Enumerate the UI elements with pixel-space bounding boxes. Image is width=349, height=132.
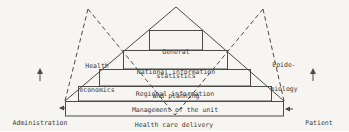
up-arrow-right-icon [310, 68, 316, 81]
administration-finance-label: Administration and finance [13, 103, 68, 132]
level-health-care-delivery-label: Health care delivery [135, 105, 213, 131]
label-line: Health care delivery [135, 121, 213, 129]
health-economics-label: Health economics [79, 46, 114, 110]
label-line: Patient [292, 119, 347, 127]
information-pyramid-diagram: General statistics National information … [0, 0, 349, 131]
label-line: Administration [13, 119, 68, 127]
label-line: miology [270, 85, 297, 93]
patient-administration-label: Patient administration [292, 103, 347, 132]
label-line: Health [79, 62, 114, 70]
label-line: economics [79, 86, 114, 94]
epidemiology-label: Epide- miology [270, 45, 297, 109]
up-arrow-left-icon [37, 68, 43, 81]
label-line: Epide- [270, 61, 297, 69]
